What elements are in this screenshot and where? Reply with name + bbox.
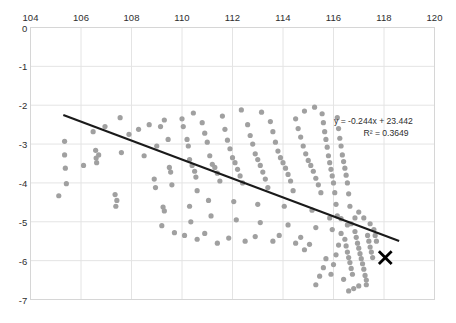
data-point (342, 237, 347, 242)
data-point (235, 167, 240, 172)
equation-text: y = -0.244x + 23.442 (334, 115, 438, 127)
data-point (325, 145, 330, 150)
data-point (63, 166, 68, 171)
data-point (234, 217, 239, 222)
data-point (186, 143, 191, 148)
data-point (308, 163, 313, 168)
data-point (341, 277, 346, 282)
data-point (255, 202, 260, 207)
data-point (356, 283, 361, 288)
data-point (349, 266, 354, 271)
data-point (356, 246, 361, 251)
y-tick-label: -4 (19, 177, 28, 188)
y-tick-label: -2 (19, 100, 28, 111)
data-point (341, 159, 346, 164)
data-point (96, 152, 101, 157)
x-tick-label: 110 (174, 12, 189, 23)
data-point (316, 182, 321, 187)
data-point (361, 215, 366, 220)
data-point (227, 146, 232, 151)
data-point (118, 115, 123, 120)
data-point (112, 192, 117, 197)
data-point (313, 225, 318, 230)
data-point (193, 175, 198, 180)
data-point (114, 198, 119, 203)
data-point (323, 137, 328, 142)
data-point (365, 233, 370, 238)
data-point (296, 126, 301, 131)
data-point (346, 255, 351, 260)
data-point (217, 178, 222, 183)
data-point (366, 239, 371, 244)
data-point (364, 277, 369, 282)
data-point (62, 139, 67, 144)
data-point (298, 134, 303, 139)
data-point (313, 176, 318, 181)
data-point (328, 272, 333, 277)
data-point (321, 265, 326, 270)
data-point (369, 249, 374, 254)
data-point (370, 255, 375, 260)
data-point (313, 282, 318, 287)
data-point (231, 199, 236, 204)
data-point (278, 155, 283, 160)
plot-svg (0, 0, 456, 323)
data-point (306, 158, 311, 163)
data-point (333, 252, 338, 257)
y-tick-label: -1 (19, 61, 28, 72)
data-point (208, 213, 213, 218)
data-point (260, 169, 265, 174)
data-points-group (56, 105, 379, 294)
data-point (212, 165, 217, 170)
data-point (330, 173, 335, 178)
data-point (361, 267, 366, 272)
data-point (220, 113, 225, 118)
data-point (328, 167, 333, 172)
y-tick-label: -3 (19, 139, 28, 150)
data-point (357, 251, 362, 256)
data-point (258, 163, 263, 168)
data-point (263, 176, 268, 181)
data-point (352, 229, 357, 234)
data-point (167, 165, 172, 170)
data-point (320, 111, 325, 116)
data-point (166, 137, 171, 142)
data-point (147, 122, 152, 127)
data-point (202, 231, 207, 236)
data-point (355, 241, 360, 246)
data-point (206, 198, 211, 203)
data-point (368, 244, 373, 249)
data-point (280, 160, 285, 165)
data-point (152, 176, 157, 181)
data-point (356, 209, 361, 214)
data-point (192, 169, 197, 174)
data-point (154, 143, 159, 148)
data-point (340, 152, 345, 157)
data-point (162, 117, 167, 122)
data-point (338, 143, 343, 148)
data-point (327, 160, 332, 165)
data-point (282, 204, 287, 209)
data-point (226, 236, 231, 241)
data-point (291, 188, 296, 193)
data-point (255, 157, 260, 162)
data-point (91, 129, 96, 134)
data-point (347, 204, 352, 209)
data-point (215, 241, 220, 246)
data-point (312, 105, 317, 110)
data-point (317, 274, 322, 279)
data-point (326, 153, 331, 158)
data-point (243, 239, 248, 244)
data-point (250, 141, 255, 146)
data-point (344, 243, 349, 248)
data-point (268, 119, 273, 124)
data-point (311, 169, 316, 174)
data-point (338, 231, 343, 236)
data-point (153, 185, 158, 190)
data-point (222, 127, 227, 132)
data-point (302, 108, 307, 113)
data-point (184, 137, 189, 142)
data-point (318, 190, 323, 195)
data-point (364, 282, 369, 287)
data-point (362, 273, 367, 278)
